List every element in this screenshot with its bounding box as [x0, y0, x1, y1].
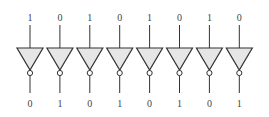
negation-bubble-icon	[87, 70, 92, 75]
input-label: 0	[177, 12, 182, 23]
output-label: 1	[117, 98, 122, 109]
negation-bubble-icon	[237, 70, 242, 75]
not-gate: 01	[226, 12, 252, 109]
not-gate: 01	[107, 12, 133, 109]
output-label: 0	[147, 98, 152, 109]
negation-bubble-icon	[207, 70, 212, 75]
not-gate: 10	[137, 12, 163, 109]
inverter-diagram: 1001100110011001	[0, 0, 269, 117]
not-gate: 01	[167, 12, 193, 109]
output-label: 1	[57, 98, 62, 109]
negation-bubble-icon	[57, 70, 62, 75]
negation-bubble-icon	[27, 70, 32, 75]
negation-bubble-icon	[117, 70, 122, 75]
inverter-triangle-icon	[196, 48, 222, 70]
inverter-triangle-icon	[107, 48, 133, 70]
input-label: 1	[28, 12, 33, 23]
input-label: 1	[207, 12, 212, 23]
output-label: 1	[237, 98, 242, 109]
negation-bubble-icon	[147, 70, 152, 75]
inverter-triangle-icon	[226, 48, 252, 70]
output-label: 0	[87, 98, 92, 109]
inverter-triangle-icon	[137, 48, 163, 70]
not-gate: 10	[17, 12, 43, 109]
output-label: 1	[177, 98, 182, 109]
not-gate: 01	[47, 12, 73, 109]
output-label: 0	[207, 98, 212, 109]
input-label: 1	[147, 12, 152, 23]
input-label: 0	[57, 12, 62, 23]
inverter-triangle-icon	[47, 48, 73, 70]
output-label: 0	[28, 98, 33, 109]
not-gate: 10	[77, 12, 103, 109]
input-label: 0	[117, 12, 122, 23]
inverter-triangle-icon	[17, 48, 43, 70]
input-label: 1	[87, 12, 92, 23]
not-gate: 10	[196, 12, 222, 109]
negation-bubble-icon	[177, 70, 182, 75]
input-label: 0	[237, 12, 242, 23]
inverter-triangle-icon	[77, 48, 103, 70]
inverter-triangle-icon	[167, 48, 193, 70]
